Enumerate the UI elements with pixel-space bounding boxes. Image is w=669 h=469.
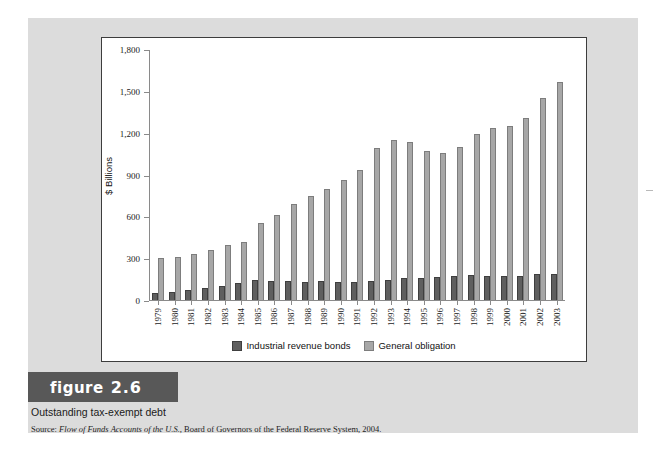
x-axis-tick-label: 1981: [186, 308, 196, 326]
x-axis-tick-label: 1997: [452, 308, 462, 326]
x-axis-tick: [557, 300, 558, 305]
bar-group: 1982: [200, 50, 217, 300]
bar-group: 1998: [465, 50, 482, 300]
y-axis-tick: [144, 301, 149, 302]
bar-general-obligation: [208, 250, 214, 300]
bar-general-obligation: [457, 147, 463, 300]
y-axis-tick: [144, 92, 149, 93]
bar-general-obligation: [474, 134, 480, 300]
bar-group: 2001: [515, 50, 532, 300]
figure-caption-title: Outstanding tax-exempt debt: [31, 406, 166, 418]
figure-badge-word: figure: [50, 379, 104, 397]
y-axis-tick-label: 1,200: [120, 129, 140, 139]
bar-series-container: 1979198019811982198319841985198619871988…: [150, 50, 565, 300]
x-axis-tick: [158, 300, 159, 305]
bar-group: 1980: [167, 50, 184, 300]
bar-group: 1986: [266, 50, 283, 300]
bar-general-obligation: [540, 98, 546, 300]
x-axis-tick: [241, 300, 242, 305]
x-axis-tick-label: 1994: [402, 308, 412, 326]
bar-general-obligation: [440, 153, 446, 300]
bar-general-obligation: [523, 118, 529, 300]
x-axis-tick-label: 1982: [203, 308, 213, 326]
bar-general-obligation: [424, 151, 430, 300]
bar-general-obligation: [341, 180, 347, 300]
x-axis-tick: [225, 300, 226, 305]
x-axis-tick: [258, 300, 259, 305]
bar-general-obligation: [258, 223, 264, 300]
y-axis-tick: [144, 50, 149, 51]
x-axis-tick-label: 1979: [153, 308, 163, 326]
bar-general-obligation: [490, 128, 496, 300]
x-axis-tick: [274, 300, 275, 305]
x-axis-tick-label: 2002: [535, 308, 545, 326]
bar-group: 1984: [233, 50, 250, 300]
bar-group: 1987: [283, 50, 300, 300]
bar-group: 1999: [482, 50, 499, 300]
x-axis-tick: [374, 300, 375, 305]
x-axis-tick-label: 1987: [286, 308, 296, 326]
figure-page: $ Billions 03006009001,2001,5001,800 197…: [0, 0, 669, 469]
bar-general-obligation: [158, 258, 164, 300]
bar-group: 1993: [382, 50, 399, 300]
legend-swatch-general-obligation: [364, 341, 374, 351]
y-axis-tick-label: 600: [127, 212, 141, 222]
bar-group: 2000: [498, 50, 515, 300]
x-axis-tick: [175, 300, 176, 305]
bar-group: 1985: [250, 50, 267, 300]
figure-badge: figure 2.6: [28, 372, 178, 402]
x-axis-tick-label: 1996: [435, 308, 445, 326]
x-axis-tick: [507, 300, 508, 305]
x-axis-tick-label: 1999: [485, 308, 495, 326]
bar-group: 1992: [366, 50, 383, 300]
legend-label-general-obligation: General obligation: [378, 340, 455, 351]
bar-general-obligation: [507, 126, 513, 300]
chart-legend: Industrial revenue bonds General obligat…: [102, 340, 586, 351]
x-axis-tick: [424, 300, 425, 305]
bar-group: 2003: [548, 50, 565, 300]
y-axis-tick-label: 1,800: [120, 45, 140, 55]
x-axis-tick-label: 2000: [502, 308, 512, 326]
y-axis-tick-label: 900: [127, 171, 141, 181]
x-axis-tick-label: 1990: [336, 308, 346, 326]
x-axis-tick-label: 1992: [369, 308, 379, 326]
y-axis-tick-label: 1,500: [120, 87, 140, 97]
x-axis-tick-label: 1988: [303, 308, 313, 326]
bar-general-obligation: [175, 257, 181, 300]
y-axis-tick: [144, 259, 149, 260]
x-axis-tick-label: 1985: [253, 308, 263, 326]
x-axis-tick: [191, 300, 192, 305]
bar-group: 1981: [183, 50, 200, 300]
bar-group: 1989: [316, 50, 333, 300]
page-edge-mark: [646, 190, 653, 191]
bar-general-obligation: [291, 204, 297, 300]
bar-group: 1983: [216, 50, 233, 300]
x-axis-tick-label: 1998: [469, 308, 479, 326]
bar-general-obligation: [308, 196, 314, 300]
x-axis-tick: [523, 300, 524, 305]
x-axis-tick-label: 1983: [220, 308, 230, 326]
bar-group: 1995: [416, 50, 433, 300]
legend-swatch-industrial-revenue-bonds: [232, 341, 242, 351]
source-prefix: Source:: [31, 424, 59, 434]
source-rest: , Board of Governors of the Federal Rese…: [180, 424, 382, 434]
bar-group: 1997: [449, 50, 466, 300]
bar-general-obligation: [374, 148, 380, 300]
x-axis-tick-label: 2003: [552, 308, 562, 326]
bar-group: 1991: [349, 50, 366, 300]
bar-group: 1994: [399, 50, 416, 300]
bar-general-obligation: [225, 245, 231, 300]
figure-badge-text: figure 2.6: [50, 378, 142, 397]
y-axis-title: $ Billions: [103, 156, 114, 194]
figure-source-line: Source: Flow of Funds Accounts of the U.…: [31, 424, 381, 434]
x-axis-tick-label: 1995: [419, 308, 429, 326]
bar-general-obligation: [274, 215, 280, 300]
bar-group: 1996: [432, 50, 449, 300]
x-axis-tick-label: 1991: [352, 308, 362, 326]
bar-general-obligation: [407, 142, 413, 300]
y-axis-tick-label: 0: [136, 296, 141, 306]
x-axis-tick-label: 1984: [236, 308, 246, 326]
y-axis-tick-label: 300: [127, 254, 141, 264]
bar-general-obligation: [191, 254, 197, 300]
plot-area: $ Billions 03006009001,2001,5001,800 197…: [149, 50, 565, 301]
